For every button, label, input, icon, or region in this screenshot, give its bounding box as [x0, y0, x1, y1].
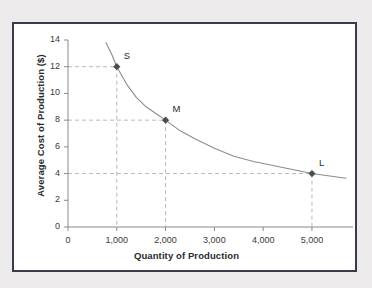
y-tick-label: 0: [34, 221, 60, 231]
x-axis-title: Quantity of Production: [14, 250, 359, 261]
chart-frame: 02468101214 01,0002,0003,0004,0005,000 S…: [12, 22, 357, 272]
x-tick-label: 4,000: [240, 235, 286, 245]
x-tick-label: 5,000: [289, 235, 335, 245]
guide-lines-group: [68, 67, 312, 227]
data-point-markers-group: [113, 63, 315, 177]
average-cost-curve: [106, 43, 346, 179]
data-point-label-m: M: [173, 103, 181, 114]
data-point-label-l: L: [319, 157, 324, 168]
axes-group: [68, 40, 353, 227]
x-tick-label: 2,000: [143, 235, 189, 245]
data-point-label-s: S: [124, 50, 130, 61]
x-tick-label: 3,000: [191, 235, 237, 245]
figure-stage: 02468101214 01,0002,0003,0004,0005,000 S…: [0, 0, 372, 288]
y-axis-title: Average Cost of Production ($): [35, 36, 46, 216]
x-tick-label: 1,000: [94, 235, 140, 245]
x-tick-label: 0: [45, 235, 91, 245]
